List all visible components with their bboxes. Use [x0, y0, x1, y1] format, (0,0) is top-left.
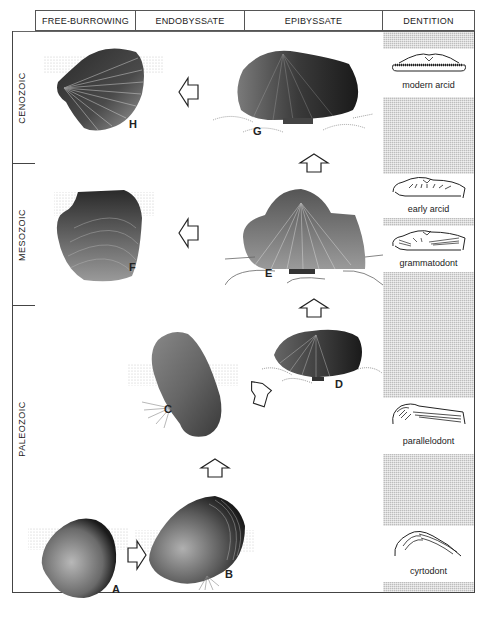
arrow-up-icon: [298, 153, 330, 173]
dentition-parallelodont: parallelodont: [383, 398, 474, 454]
arrow-up-icon: [199, 458, 231, 478]
dentition-label-parallelodont: parallelodont: [383, 436, 474, 446]
parallelodont-hinge-icon: [389, 398, 469, 428]
header-epibyssate: EPIBYSSATE: [245, 10, 383, 31]
era-mesozoic-text: MESOZOIC: [17, 208, 27, 260]
specimen-D-shell: [262, 325, 382, 385]
column-header-row: FREE-BURROWING ENDOBYSSATE EPIBYSSATE DE…: [35, 10, 475, 31]
specimen-label-D: D: [335, 378, 343, 390]
hatch-band: [383, 272, 474, 398]
arrow-left-icon: [178, 217, 200, 249]
dentition-label-early-arcid: early arcid: [383, 204, 474, 214]
header-endobyssate: ENDOBYSSATE: [136, 10, 245, 31]
specimen-E-shell: [225, 185, 385, 295]
specimen-C-shell: [128, 328, 248, 440]
specimen-F-shell: [44, 188, 164, 288]
cyrtodont-hinge-icon: [389, 526, 469, 560]
specimen-B-shell: [135, 490, 255, 590]
specimen-label-E: E: [265, 267, 272, 279]
dentition-column: modern arcid early arcid grammatodont pa…: [383, 32, 474, 592]
hatch-band: [383, 582, 474, 592]
dentition-early-arcid: early arcid: [383, 174, 474, 218]
era-label-cenozoic: CENOZOIC: [12, 32, 32, 163]
header-dentition: DENTITION: [383, 10, 475, 31]
specimen-label-B: B: [225, 568, 233, 580]
era-paleozoic-text: PALEOZOIC: [17, 401, 27, 456]
arrow-up-icon: [298, 298, 330, 318]
specimen-label-C: C: [164, 403, 172, 415]
dentition-grammatodont: grammatodont: [383, 226, 474, 272]
specimen-G-shell: [213, 40, 373, 140]
specimen-A-shell: [24, 510, 134, 610]
modern-arcid-hinge-icon: [389, 49, 469, 77]
dentition-cyrtodont: cyrtodont: [383, 526, 474, 582]
dentition-label-grammatodont: grammatodont: [383, 258, 474, 268]
hatch-band: [383, 454, 474, 526]
arrow-right-icon: [127, 539, 147, 571]
specimen-label-F: F: [129, 261, 136, 273]
dentition-label-modern-arcid: modern arcid: [383, 80, 474, 90]
specimen-label-A: A: [112, 583, 120, 595]
early-arcid-hinge-icon: [389, 174, 469, 202]
hatch-band: [383, 218, 474, 226]
specimen-label-G: G: [253, 125, 262, 137]
dentition-modern-arcid: modern arcid: [383, 49, 474, 97]
specimen-label-H: H: [129, 118, 137, 130]
era-cenozoic-text: CENOZOIC: [17, 72, 27, 124]
specimen-H-shell: [44, 44, 164, 134]
arrow-left-icon: [178, 76, 200, 108]
dentition-label-cyrtodont: cyrtodont: [383, 566, 474, 576]
era-label-mesozoic: MESOZOIC: [12, 164, 32, 305]
hatch-band: [383, 32, 474, 49]
hatch-band: [383, 97, 474, 174]
arrow-diagonal-up-right-icon: [248, 378, 274, 410]
header-free-burrowing: FREE-BURROWING: [35, 10, 136, 31]
grammatodont-hinge-icon: [389, 226, 469, 254]
